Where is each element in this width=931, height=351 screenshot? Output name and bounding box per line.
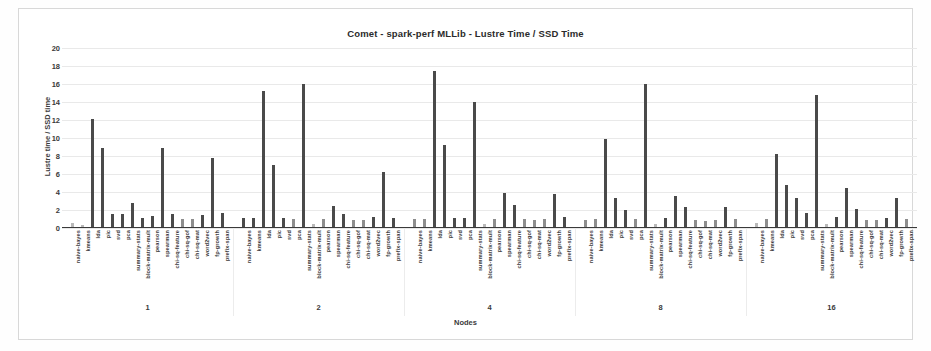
bar bbox=[614, 198, 617, 228]
plot-area bbox=[62, 48, 917, 228]
category-tick-label: pearson bbox=[154, 230, 160, 252]
category-tick-label: lda bbox=[266, 230, 272, 238]
bar bbox=[382, 172, 385, 228]
category-tick-label: svd bbox=[799, 230, 805, 240]
category-tick-label: naive-bayes bbox=[588, 230, 594, 263]
category-tick-label: pic bbox=[105, 230, 111, 238]
y-tick-label: 6 bbox=[30, 170, 60, 179]
category-tick-label: prefix-span bbox=[908, 230, 914, 261]
group-tick-label: 4 bbox=[487, 303, 491, 312]
category-tick-label: naive-bayes bbox=[75, 230, 81, 263]
bar bbox=[815, 95, 818, 228]
category-tick-labels: naive-bayeskmeansldapicsvdpcasummary-sta… bbox=[62, 230, 917, 296]
category-tick-label: pca bbox=[809, 230, 815, 240]
bar bbox=[724, 207, 727, 228]
y-tick-label: 16 bbox=[30, 80, 60, 89]
bar bbox=[302, 84, 305, 228]
category-tick-label: fp-growth bbox=[556, 230, 562, 257]
category-tick-label: naive-bayes bbox=[417, 230, 423, 263]
category-tick-label: summary-stats bbox=[306, 230, 312, 271]
category-tick-label: kmeans bbox=[427, 230, 433, 251]
category-tick-label: chi-sq-gof bbox=[184, 230, 190, 258]
category-tick-label: chi-sq-mat bbox=[536, 230, 542, 259]
category-tick-label: naive-bayes bbox=[246, 230, 252, 263]
category-tick-label: word2vec bbox=[204, 230, 210, 257]
bar bbox=[795, 198, 798, 228]
category-tick-label: pca bbox=[296, 230, 302, 240]
category-tick-label: svd bbox=[628, 230, 634, 240]
bar bbox=[624, 210, 627, 228]
category-tick-label: kmeans bbox=[769, 230, 775, 251]
category-tick-label: pearson bbox=[838, 230, 844, 252]
category-tick-label: chi-sq-feature bbox=[516, 230, 522, 268]
category-tick-label: pic bbox=[276, 230, 282, 238]
bar bbox=[473, 102, 476, 228]
category-tick-label: spearman bbox=[506, 230, 512, 257]
category-tick-label: lda bbox=[608, 230, 614, 238]
group-tick-labels: 124816 bbox=[62, 303, 917, 317]
category-tick-label: chi-sq-gof bbox=[868, 230, 874, 258]
bar bbox=[513, 205, 516, 228]
bar bbox=[855, 209, 858, 228]
bar bbox=[443, 145, 446, 228]
y-tick-label: 14 bbox=[30, 98, 60, 107]
group-tick-label: 16 bbox=[827, 303, 835, 312]
category-tick-label: block-matrix-mult bbox=[658, 230, 664, 279]
bar bbox=[684, 207, 687, 228]
category-tick-label: lda bbox=[779, 230, 785, 238]
category-tick-label: summary-stats bbox=[477, 230, 483, 271]
bars-layer bbox=[62, 48, 917, 228]
category-tick-label: word2vec bbox=[717, 230, 723, 257]
category-tick-label: kmeans bbox=[85, 230, 91, 251]
bar bbox=[604, 139, 607, 228]
category-tick-label: fp-growth bbox=[385, 230, 391, 257]
category-tick-label: spearman bbox=[335, 230, 341, 257]
category-tick-label: svd bbox=[286, 230, 292, 240]
category-tick-label: chi-sq-feature bbox=[687, 230, 693, 268]
group-separator bbox=[233, 228, 234, 316]
group-separator bbox=[575, 228, 576, 316]
category-tick-label: chi-sq-mat bbox=[707, 230, 713, 259]
bar bbox=[262, 91, 265, 228]
bar bbox=[785, 185, 788, 228]
group-tick-label: 1 bbox=[145, 303, 149, 312]
category-tick-label: fp-growth bbox=[727, 230, 733, 257]
category-tick-label: kmeans bbox=[256, 230, 262, 251]
category-tick-label: pic bbox=[618, 230, 624, 238]
category-tick-label: spearman bbox=[848, 230, 854, 257]
bar bbox=[91, 119, 94, 228]
bar bbox=[211, 158, 214, 228]
y-tick-label: 20 bbox=[30, 44, 60, 53]
category-tick-label: summary-stats bbox=[135, 230, 141, 271]
y-tick-label: 10 bbox=[30, 134, 60, 143]
category-tick-label: pearson bbox=[325, 230, 331, 252]
category-tick-label: kmeans bbox=[598, 230, 604, 251]
category-tick-label: fp-growth bbox=[214, 230, 220, 257]
group-tick-label: 2 bbox=[316, 303, 320, 312]
category-tick-label: prefix-span bbox=[737, 230, 743, 261]
y-tick-label: 2 bbox=[30, 206, 60, 215]
category-tick-label: chi-sq-feature bbox=[858, 230, 864, 268]
category-tick-label: chi-sq-mat bbox=[365, 230, 371, 259]
category-tick-label: prefix-span bbox=[395, 230, 401, 261]
category-tick-label: chi-sq-mat bbox=[878, 230, 884, 259]
y-tick-label: 18 bbox=[30, 62, 60, 71]
category-tick-label: chi-sq-feature bbox=[174, 230, 180, 268]
y-tick-label: 4 bbox=[30, 188, 60, 197]
y-tick-label: 12 bbox=[30, 116, 60, 125]
bar bbox=[221, 213, 224, 228]
category-tick-label: lda bbox=[95, 230, 101, 238]
bar bbox=[101, 148, 104, 228]
category-tick-label: pca bbox=[638, 230, 644, 240]
bar bbox=[131, 203, 134, 228]
category-tick-label: summary-stats bbox=[819, 230, 825, 271]
category-tick-label: block-matrix-mult bbox=[487, 230, 493, 279]
category-tick-label: word2vec bbox=[546, 230, 552, 257]
category-tick-label: block-matrix-mult bbox=[316, 230, 322, 279]
x-axis-line bbox=[62, 227, 917, 228]
group-separator bbox=[404, 228, 405, 316]
category-tick-label: spearman bbox=[677, 230, 683, 257]
category-tick-label: lda bbox=[437, 230, 443, 238]
category-tick-label: chi-sq-feature bbox=[345, 230, 351, 268]
category-tick-label: prefix-span bbox=[566, 230, 572, 261]
